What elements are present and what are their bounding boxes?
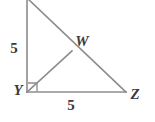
vertex-label-y: Y: [13, 82, 24, 98]
vertex-label-w: W: [75, 33, 90, 49]
geometry-diagram: W Y Z 5 5: [0, 0, 155, 122]
measure-label-left-side: 5: [10, 40, 18, 56]
diagram-canvas: W Y Z 5 5: [0, 0, 155, 122]
segment-cevian-yw: [27, 51, 72, 92]
measure-label-bottom-side: 5: [67, 97, 75, 113]
vertex-label-z: Z: [129, 86, 139, 102]
